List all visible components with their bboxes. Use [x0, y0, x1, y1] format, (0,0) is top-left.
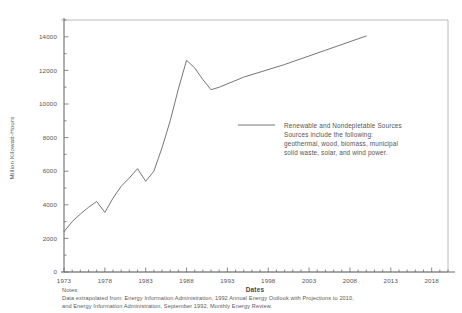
notes-line-2: and Energy Information Administration, S… — [62, 303, 272, 309]
x-tick-label: 1973 — [57, 277, 72, 284]
legend-label-line-2: Sources include the following: — [284, 131, 373, 139]
legend-label-line-4: solid waste, solar, and wind power. — [284, 149, 388, 157]
x-tick-label: 2013 — [384, 277, 399, 284]
x-tick-label: 1983 — [139, 277, 154, 284]
x-tick-label: 2008 — [343, 277, 358, 284]
y-tick-label: 8000 — [43, 134, 58, 141]
chart-svg: 02000400060008000100001200014000 1973197… — [0, 0, 462, 313]
chart-notes: Notes: Data extrapolated from: Energy In… — [62, 287, 354, 309]
notes-line-1: Data extrapolated from: Energy Informati… — [62, 295, 354, 301]
x-axis-tick-labels: 1973197819831988199319982003200820132018 — [57, 277, 439, 284]
y-tick-label: 6000 — [43, 167, 58, 174]
notes-heading: Notes: — [62, 287, 79, 293]
x-tick-label: 2003 — [302, 277, 317, 284]
x-tick-label: 2018 — [424, 277, 439, 284]
y-tick-label: 14000 — [39, 33, 57, 40]
x-tick-label: 1998 — [261, 277, 276, 284]
x-axis-ticks — [64, 268, 448, 273]
y-tick-label: 0 — [53, 268, 57, 275]
y-tick-label: 10000 — [39, 100, 57, 107]
x-axis-title: Dates — [246, 286, 265, 293]
y-tick-label: 2000 — [43, 235, 58, 242]
chart-figure: 02000400060008000100001200014000 1973197… — [0, 0, 462, 313]
legend-label-line-1: Renewable and Nondepletable Sources — [284, 122, 402, 130]
legend-label-line-3: geothermal, wood, biomass, municipal — [284, 140, 398, 148]
y-axis-tick-labels: 02000400060008000100001200014000 — [39, 33, 57, 275]
chart-legend: Renewable and Nondepletable Sources Sour… — [238, 122, 402, 157]
x-tick-label: 1978 — [98, 277, 113, 284]
y-axis-title: Million Kilowatt-Hours — [8, 117, 15, 180]
y-axis-ticks — [64, 20, 69, 272]
y-tick-label: 12000 — [39, 67, 57, 74]
y-tick-label: 4000 — [43, 201, 58, 208]
x-tick-label: 1988 — [179, 277, 194, 284]
x-tick-label: 1993 — [220, 277, 235, 284]
